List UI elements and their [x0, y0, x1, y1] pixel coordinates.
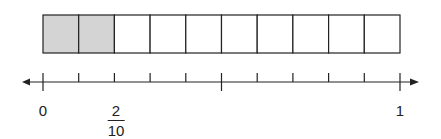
fraction-diagram [0, 0, 441, 139]
bar-cell [222, 15, 258, 53]
bar-cell [364, 15, 400, 53]
bar-cell-shaded [79, 15, 115, 53]
arrow-right-icon [410, 79, 419, 86]
bar-cell [293, 15, 329, 53]
arrow-left-icon [22, 79, 30, 86]
label-one: 1 [396, 103, 404, 118]
number-line [22, 73, 419, 91]
bar-cell-shaded [43, 15, 79, 53]
fraction-denominator: 10 [108, 121, 125, 138]
label-zero: 0 [39, 103, 47, 118]
fraction-numerator: 2 [108, 103, 125, 121]
bar-cell [150, 15, 186, 53]
fraction-bar [43, 15, 400, 53]
bar-cell [186, 15, 222, 53]
bar-cell [114, 15, 150, 53]
label-fraction-two-tenths: 2 10 [108, 103, 125, 138]
bar-cell [329, 15, 365, 53]
bar-cell [257, 15, 293, 53]
